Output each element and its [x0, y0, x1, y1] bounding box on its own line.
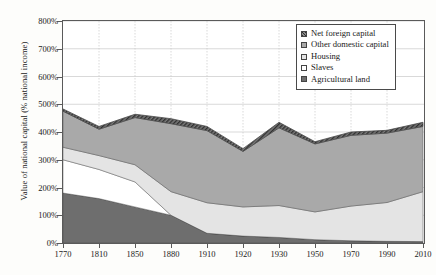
x-axis-tick-mark: [135, 244, 136, 248]
legend-swatch-agricultural-land: [301, 76, 307, 82]
x-axis-tick-mark: [63, 244, 64, 248]
x-axis-tick-label: 1920: [235, 249, 252, 259]
x-axis-tick-mark: [171, 244, 172, 248]
x-axis-tick-mark: [99, 244, 100, 248]
y-axis-tick-mark: [57, 160, 62, 161]
x-axis-tick-label: 1970: [343, 249, 360, 259]
y-axis-tick-label: 100%: [18, 211, 58, 219]
x-axis-tick-label: 1880: [163, 249, 180, 259]
legend-label-slaves: Slaves: [311, 62, 333, 73]
x-axis-tick-mark: [315, 244, 316, 248]
legend-item[interactable]: Agricultural land: [301, 74, 389, 85]
y-axis-tick-mark: [57, 21, 62, 22]
x-axis-tick-mark: [279, 244, 280, 248]
x-axis-tick-label: 2010: [415, 249, 432, 259]
x-axis-tick-mark: [387, 244, 388, 248]
legend-swatch-net-foreign-capital: [301, 31, 307, 37]
y-axis-tick-mark: [57, 77, 62, 78]
legend-label-net-foreign-capital: Net foreign capital: [311, 28, 375, 39]
y-axis-tick-label: 0%: [18, 239, 58, 247]
legend-swatch-housing: [301, 54, 307, 60]
x-axis-tick-mark: [423, 244, 424, 248]
x-axis-tick-label: 1850: [127, 249, 144, 259]
y-axis-tick-mark: [57, 49, 62, 50]
legend-label-housing: Housing: [311, 51, 340, 62]
legend-label-other-domestic-capital: Other domestic capital: [311, 39, 389, 50]
y-axis-tick-mark: [57, 132, 62, 133]
legend: Net foreign capital Other domestic capit…: [296, 24, 396, 90]
legend-swatch-other-domestic-capital: [301, 42, 307, 48]
x-axis-tick-mark: [243, 244, 244, 248]
y-axis-tick-label: 600%: [18, 73, 58, 81]
y-axis-tick-label: 200%: [18, 184, 58, 192]
y-axis-tick-labels: 0%100%200%300%400%500%600%700%800%: [16, 0, 58, 275]
y-axis-tick-label: 800%: [18, 17, 58, 25]
y-axis-tick-label: 700%: [18, 45, 58, 53]
y-axis-tick-label: 400%: [18, 128, 58, 136]
x-axis-tick-labels: 1770181018501880191019201930195019701990…: [0, 249, 436, 269]
legend-item[interactable]: Slaves: [301, 62, 389, 73]
y-axis-tick-mark: [57, 243, 62, 244]
x-axis-tick-label: 1910: [199, 249, 216, 259]
legend-swatch-slaves: [301, 65, 307, 71]
x-axis-tick-label: 1990: [379, 249, 396, 259]
x-axis-tick-label: 1950: [307, 249, 324, 259]
legend-label-agricultural-land: Agricultural land: [311, 74, 370, 85]
legend-item[interactable]: Net foreign capital: [301, 28, 389, 39]
x-axis-tick-label: 1770: [55, 249, 72, 259]
y-axis-tick-label: 500%: [18, 100, 58, 108]
y-axis-tick-mark: [57, 188, 62, 189]
x-axis-tick-mark: [351, 244, 352, 248]
legend-item[interactable]: Other domestic capital: [301, 39, 389, 50]
x-axis-tick-label: 1930: [271, 249, 288, 259]
chart-container: Value of national capital (% national in…: [0, 0, 436, 275]
x-axis-tick-label: 1810: [91, 249, 108, 259]
y-axis-tick-mark: [57, 104, 62, 105]
x-axis-tick-mark: [207, 244, 208, 248]
legend-item[interactable]: Housing: [301, 51, 389, 62]
y-axis-tick-mark: [57, 215, 62, 216]
y-axis-tick-label: 300%: [18, 156, 58, 164]
